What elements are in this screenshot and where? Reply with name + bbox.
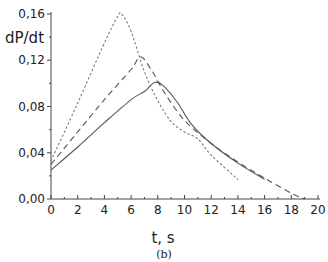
- y-tick-label: 0,04: [18, 146, 45, 160]
- axes: 024681012141618200,000,040,080,120,16: [18, 7, 325, 217]
- figure-caption: (b): [156, 248, 172, 261]
- x-tick-label: 8: [154, 203, 162, 217]
- y-tick-label: 0,16: [18, 7, 45, 21]
- y-axis-title: dP/dt: [5, 29, 44, 47]
- y-tick-label: 0,12: [18, 53, 45, 67]
- x-tick-label: 18: [284, 203, 299, 217]
- x-tick-label: 20: [310, 203, 325, 217]
- x-tick-label: 4: [101, 203, 109, 217]
- x-axis-title: t, s: [151, 229, 174, 247]
- x-tick-label: 14: [230, 203, 245, 217]
- y-tick-label: 0,08: [18, 100, 45, 114]
- x-tick-label: 6: [127, 203, 135, 217]
- series-group: [51, 12, 305, 199]
- y-tick-label: 0,00: [18, 192, 45, 206]
- x-tick-label: 0: [47, 203, 55, 217]
- line-chart: 024681012141618200,000,040,080,120,16 dP…: [0, 0, 328, 262]
- series-line-dotted: [51, 12, 238, 179]
- x-tick-label: 10: [177, 203, 192, 217]
- x-tick-label: 2: [74, 203, 82, 217]
- x-tick-label: 12: [204, 203, 219, 217]
- series-line-solid: [51, 82, 265, 179]
- x-tick-label: 16: [257, 203, 272, 217]
